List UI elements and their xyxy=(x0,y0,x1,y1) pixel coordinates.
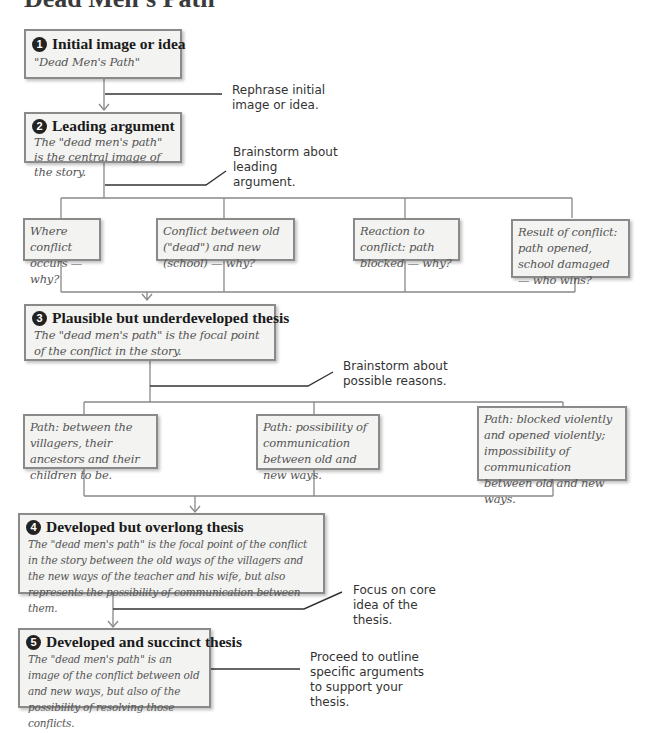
stage-heading: Developed but overlong thesis xyxy=(46,518,244,536)
stage-text: The "dead men's path" is the central ima… xyxy=(32,135,174,180)
callout-brainstorm-reasons: Brainstorm about possible reasons. xyxy=(343,359,453,389)
stage-4-overlong-thesis: 4 Developed but overlong thesis The "dea… xyxy=(18,513,325,594)
reason-box: Path: possibility of communication betwe… xyxy=(256,414,380,470)
stage-heading: Plausible but underdeveloped thesis xyxy=(52,309,289,327)
stage-text: The "dead men's path" is the focal point… xyxy=(32,327,268,359)
reason-box: Path: blocked violently and opened viole… xyxy=(477,406,627,481)
page-title: Dead Men's Path xyxy=(24,0,215,14)
step-number-badge: 4 xyxy=(26,520,41,535)
callout-focus-core: Focus on core idea of the thesis. xyxy=(353,583,458,628)
step-number-badge: 5 xyxy=(26,635,41,650)
stage-text: The "dead men's path" is an image of the… xyxy=(26,651,203,731)
step-number-badge: 2 xyxy=(32,119,47,134)
idea-box: Reaction to conflict: path blocked — why… xyxy=(353,218,460,261)
stage-2-leading-argument: 2 Leading argument The "dead men's path"… xyxy=(24,112,182,163)
callout-brainstorm-argument: Brainstorm about leading argument. xyxy=(233,145,343,190)
stage-5-succinct-thesis: 5 Developed and succinct thesis The "dea… xyxy=(18,628,211,708)
stage-heading: Developed and succinct thesis xyxy=(46,633,242,651)
callout-rephrase: Rephrase initial image or idea. xyxy=(232,83,337,113)
step-number-badge: 1 xyxy=(32,37,47,52)
stage-text: "Dead Men's Path" xyxy=(32,53,174,71)
stage-heading: Initial image or idea xyxy=(52,35,186,53)
stage-text: The "dead men's path" is the focal point… xyxy=(26,536,317,616)
step-number-badge: 3 xyxy=(32,311,47,326)
idea-box: Result of conflict: path opened, school … xyxy=(511,219,630,278)
reason-box: Path: between the villagers, their ances… xyxy=(23,414,158,469)
stage-heading: Leading argument xyxy=(52,117,175,135)
stage-1-initial-idea: 1 Initial image or idea "Dead Men's Path… xyxy=(24,29,182,79)
stage-3-plausible-thesis: 3 Plausible but underdeveloped thesis Th… xyxy=(24,304,276,361)
idea-box: Conflict between old ("dead") and new (s… xyxy=(156,218,295,261)
idea-box: Where conflict occurs — why? xyxy=(23,218,101,261)
callout-proceed-outline: Proceed to outline specific arguments to… xyxy=(310,650,435,710)
